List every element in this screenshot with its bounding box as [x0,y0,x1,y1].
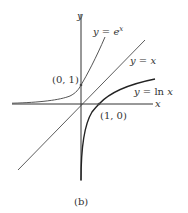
x-axis-label: x [155,98,161,109]
function-graph: y x y = ex y = x y = ln x (0, 1) (1, 0) … [0,0,188,213]
point-0-1 [80,84,83,87]
ln-label: y = ln x [133,86,173,97]
identity-label: y = x [129,55,156,66]
y-axis-label: y [76,10,83,21]
figure-caption: (b) [74,196,88,207]
point-1-0-label: (1, 0) [100,110,127,121]
exp-label: y = ex [92,25,123,37]
point-1-0 [98,103,101,106]
exp-curve [12,37,105,103]
point-0-1-label: (0, 1) [52,74,79,85]
